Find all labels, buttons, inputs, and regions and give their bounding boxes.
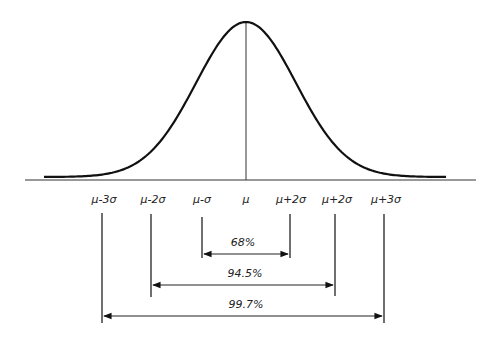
bell-curve (44, 22, 446, 177)
tick-label-minus1sigma: μ-σ (192, 193, 212, 206)
range-label-68: 68% (231, 236, 255, 249)
range-label-99: 99.7% (229, 298, 264, 311)
tick-label-minus3sigma: μ-3σ (91, 193, 118, 206)
normal-distribution-diagram: μ-3σ μ-2σ μ-σ μ μ+2σ μ+2σ μ+3σ 68% 94.5%… (0, 0, 500, 342)
tick-label-minus2sigma: μ-2σ (140, 193, 167, 206)
range-label-94: 94.5% (228, 267, 263, 280)
tick-label-plus3sigma: μ+3σ (370, 193, 402, 206)
tick-label-mu: μ (242, 193, 250, 206)
tick-label-plus2sigma: μ+2σ (321, 193, 353, 206)
tick-label-plus1sigma: μ+2σ (275, 193, 307, 206)
